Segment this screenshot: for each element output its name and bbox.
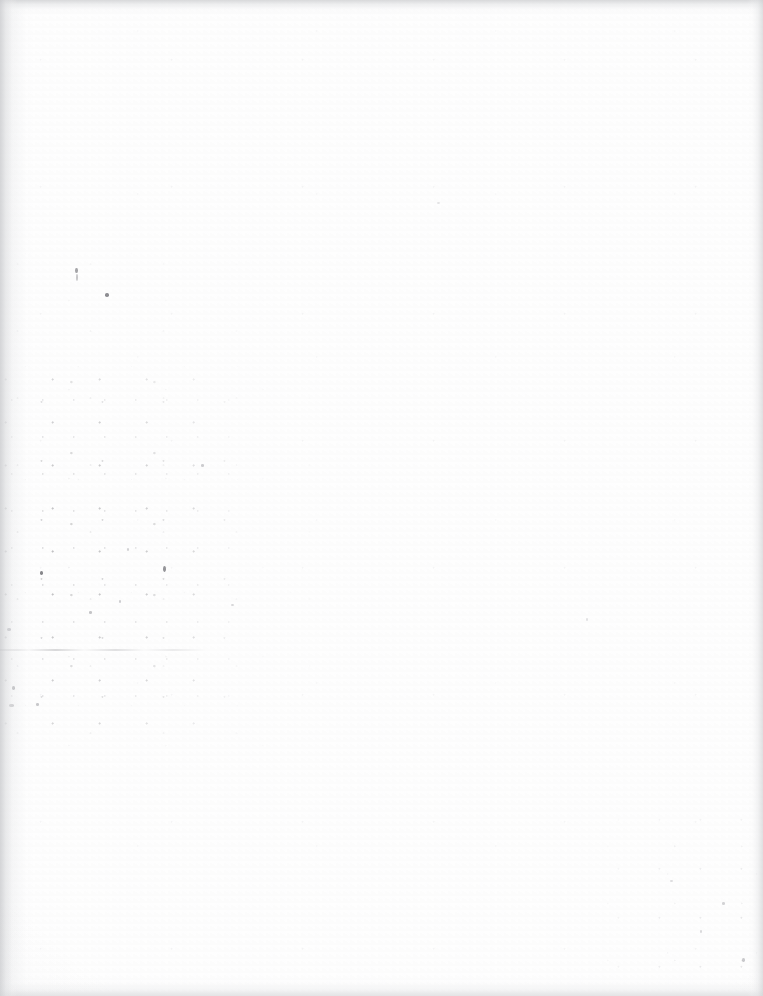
paper-surface xyxy=(0,0,763,996)
scanned-page xyxy=(0,0,763,996)
